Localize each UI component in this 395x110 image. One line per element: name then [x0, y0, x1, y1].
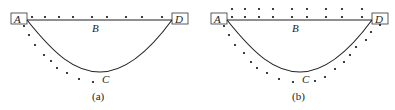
- label-a: A: [213, 13, 221, 25]
- label-a: A: [13, 13, 21, 25]
- diagram-canvas: A D B C (a) A D B C (b): [0, 0, 395, 110]
- dots-top-a: [31, 16, 163, 18]
- curved-path-acd: [27, 20, 172, 72]
- label-b: B: [92, 22, 99, 34]
- panel-a: A D B C (a): [11, 13, 188, 104]
- label-d: D: [374, 13, 383, 25]
- panel-b: A D B C (b): [211, 8, 388, 103]
- label-c: C: [102, 73, 110, 85]
- caption-b: (b): [292, 90, 305, 103]
- dots-top-row1-b: [231, 8, 363, 10]
- label-d: D: [174, 13, 183, 25]
- dots-top-row2-b: [231, 16, 363, 18]
- label-c: C: [302, 73, 310, 85]
- curved-path-acd: [227, 20, 372, 72]
- caption-a: (a): [92, 90, 105, 103]
- label-b: B: [292, 22, 299, 34]
